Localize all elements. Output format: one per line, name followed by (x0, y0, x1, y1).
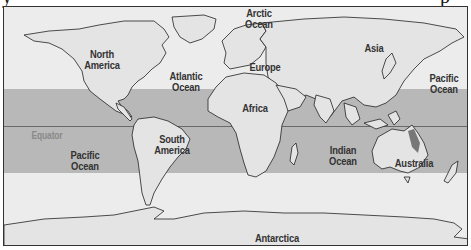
south-america-shape (132, 117, 190, 205)
world-map: Arctic Ocean North America Atlantic Ocea… (3, 6, 468, 246)
label-equator: Equator (26, 130, 69, 141)
label-north-america: North America (77, 49, 128, 71)
label-south-america: South America (147, 134, 198, 156)
label-pacific-ocean-north: Pacific Ocean (423, 73, 466, 95)
label-europe: Europe (244, 62, 287, 73)
greenland-shape (172, 15, 216, 43)
antarctica-shape (4, 207, 468, 246)
landmasses (4, 7, 468, 246)
label-arctic-ocean: Arctic Ocean (238, 8, 281, 30)
label-africa: Africa (234, 103, 277, 114)
label-indian-ocean: Indian Ocean (322, 145, 365, 167)
label-pacific-ocean-south: Pacific Ocean (64, 150, 107, 172)
label-atlantic-ocean: Atlantic Ocean (161, 71, 212, 93)
label-asia: Asia (357, 43, 391, 54)
label-antarctica: Antarctica (247, 233, 307, 244)
label-australia: Australia (389, 158, 440, 169)
